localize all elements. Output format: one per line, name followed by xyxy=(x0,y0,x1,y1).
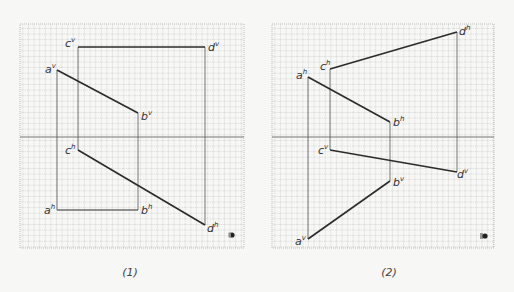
figure-2: dh ch ah bh cv dv bv av (2) xyxy=(272,24,494,279)
marker-icon-2 xyxy=(480,233,488,239)
figure-1: cv dv av bv ch ah bh dh (1) xyxy=(20,24,244,279)
diagram-canvas: cv dv av bv ch ah bh dh (1) dh ch xyxy=(0,0,514,292)
caption-1: (1) xyxy=(122,266,138,279)
caption-2: (2) xyxy=(381,266,397,279)
marker-icon-1 xyxy=(229,232,235,237)
grid-2 xyxy=(272,24,494,248)
grid-1 xyxy=(20,24,244,248)
